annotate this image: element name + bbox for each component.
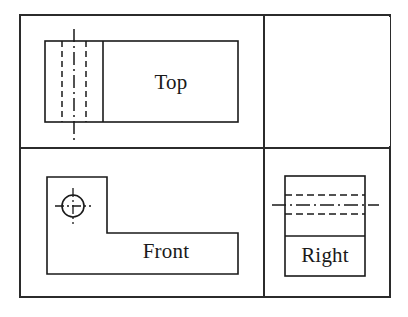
top-view-label: Top bbox=[155, 70, 188, 94]
view-right: Right bbox=[272, 176, 379, 276]
multiview-drawing-svg: Top Front Right bbox=[0, 0, 408, 317]
engineering-drawing-canvas: Top Front Right bbox=[0, 0, 408, 317]
right-view-label: Right bbox=[301, 243, 349, 267]
frame-topright-blank-mask bbox=[266, 17, 390, 146]
front-view-label: Front bbox=[143, 239, 190, 263]
